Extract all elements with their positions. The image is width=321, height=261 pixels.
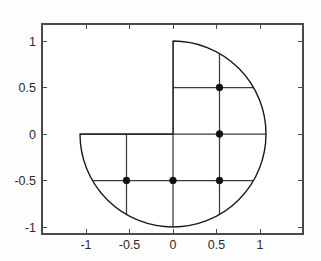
plot-area: -1 -0.5 0 0.5 1 1 0.5 0 -0.5 -1 (0, 0, 321, 261)
y-axis-tick-labels: 1 0.5 0 -0.5 -1 (14, 35, 36, 235)
node-marker (216, 131, 223, 138)
node-marker (216, 84, 223, 91)
x-tick-label: -0.5 (119, 238, 141, 252)
x-tick-label: 0 (170, 238, 177, 252)
x-tick-label: 0.5 (208, 238, 225, 252)
figure-canvas: -1 -0.5 0 0.5 1 1 0.5 0 -0.5 -1 (0, 0, 321, 261)
y-tick-label: 1 (29, 35, 36, 49)
x-axis-tick-labels: -1 -0.5 0 0.5 1 (80, 238, 263, 252)
node-marker (123, 177, 130, 184)
y-tick-label: -1 (25, 221, 36, 235)
x-tick-label: 1 (257, 238, 264, 252)
y-tick-label: 0.5 (19, 81, 36, 95)
node-marker (216, 177, 223, 184)
node-marker (170, 177, 177, 184)
x-tick-label: -1 (80, 238, 91, 252)
y-tick-label: 0 (29, 128, 36, 142)
y-tick-label: -0.5 (14, 174, 36, 188)
